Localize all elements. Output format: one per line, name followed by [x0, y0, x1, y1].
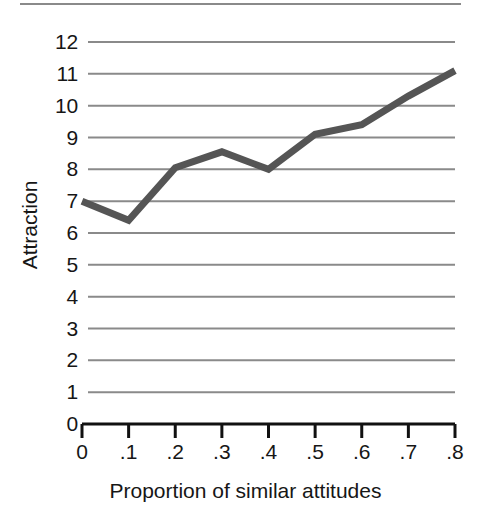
x-axis-tick-label-text: .5: [295, 440, 335, 464]
figure-container: 0123456789101112 0.1.2.3.4.5.6.7.8 Attra…: [0, 0, 491, 520]
data-series-group: [82, 71, 455, 221]
y-axis-tick-label-text: 9: [42, 127, 78, 148]
x-axis-tick-label-text: .3: [202, 440, 242, 464]
y-axis-tick-label: 6: [42, 222, 78, 243]
x-axis-tick-label: .7: [388, 440, 428, 464]
y-axis-tick-label: 11: [42, 63, 78, 84]
y-axis-tick-label: 1: [42, 381, 78, 402]
y-axis-tick-label: 2: [42, 349, 78, 370]
y-axis-tick-label-text: 0: [42, 413, 78, 434]
y-axis-tick-label-text: 4: [42, 286, 78, 307]
plot-area: 0123456789101112 0.1.2.3.4.5.6.7.8 Attra…: [0, 0, 491, 520]
x-axis-tick-label: .1: [109, 440, 149, 464]
x-axis-tick-label: .2: [155, 440, 195, 464]
gridlines-group: [88, 42, 455, 392]
x-axis-tick-label: .4: [249, 440, 289, 464]
x-axis-tick-label-text: .1: [109, 440, 149, 464]
y-axis-title: Attraction: [18, 135, 42, 315]
y-axis-tick-label: 7: [42, 190, 78, 211]
y-axis-tick-label: 3: [42, 318, 78, 339]
y-axis-tick-label: 12: [42, 31, 78, 52]
y-axis-tick-label-text: 2: [42, 349, 78, 370]
y-axis-tick-label: 0: [42, 413, 78, 434]
y-axis-tick-label: 10: [42, 95, 78, 116]
x-axis-tick-label-text: 0: [62, 440, 102, 464]
y-axis-tick-label-text: 8: [42, 158, 78, 179]
x-axis-tick-label: .6: [342, 440, 382, 464]
x-axis-title: Proportion of similar attitudes: [0, 479, 491, 503]
y-axis-tick-label-text: 1: [42, 381, 78, 402]
x-axis-tick-label: .8: [435, 440, 475, 464]
y-axis-tick-label-text: 11: [42, 63, 78, 84]
x-axis-tick-label-text: .4: [249, 440, 289, 464]
x-axis-tick-label: .3: [202, 440, 242, 464]
x-axis-tick-label-text: .6: [342, 440, 382, 464]
y-axis-tick-label: 5: [42, 254, 78, 275]
y-axis-tick-label-text: 3: [42, 318, 78, 339]
y-axis-tick-label-text: 12: [42, 31, 78, 52]
y-axis-tick-label: 4: [42, 286, 78, 307]
x-axis-group: [82, 424, 455, 438]
y-axis-tick-label: 9: [42, 127, 78, 148]
y-axis-tick-label-text: 5: [42, 254, 78, 275]
x-axis-tick-label: .5: [295, 440, 335, 464]
y-axis-tick-label-text: 6: [42, 222, 78, 243]
y-axis-tick-label: 8: [42, 158, 78, 179]
x-axis-tick-label-text: .7: [388, 440, 428, 464]
x-axis-tick-label-text: .2: [155, 440, 195, 464]
data-line: [82, 71, 455, 221]
x-axis-tick-label-text: .8: [435, 440, 475, 464]
y-axis-tick-label-text: 10: [42, 95, 78, 116]
x-axis-tick-label: 0: [62, 440, 102, 464]
y-axis-tick-label-text: 7: [42, 190, 78, 211]
